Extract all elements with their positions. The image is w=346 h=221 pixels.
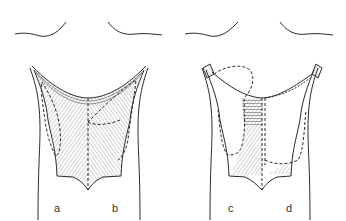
anatomical-diagram: a b c d	[0, 0, 346, 221]
right-torso	[185, 22, 333, 220]
pectoral-left	[34, 70, 88, 183]
label-d: d	[286, 203, 292, 214]
right-clavicle	[280, 22, 333, 35]
torso-right-side	[138, 68, 148, 220]
right-clavicle	[108, 22, 162, 35]
left-clavicle	[185, 22, 238, 36]
flap-d-outline	[265, 78, 310, 98]
left-torso	[15, 22, 162, 220]
torso-left-side	[30, 68, 40, 220]
label-c: c	[228, 203, 234, 214]
left-clavicle	[15, 22, 66, 36]
label-a: a	[54, 203, 60, 214]
torso-illustrations	[0, 0, 346, 221]
label-b: b	[112, 203, 118, 214]
